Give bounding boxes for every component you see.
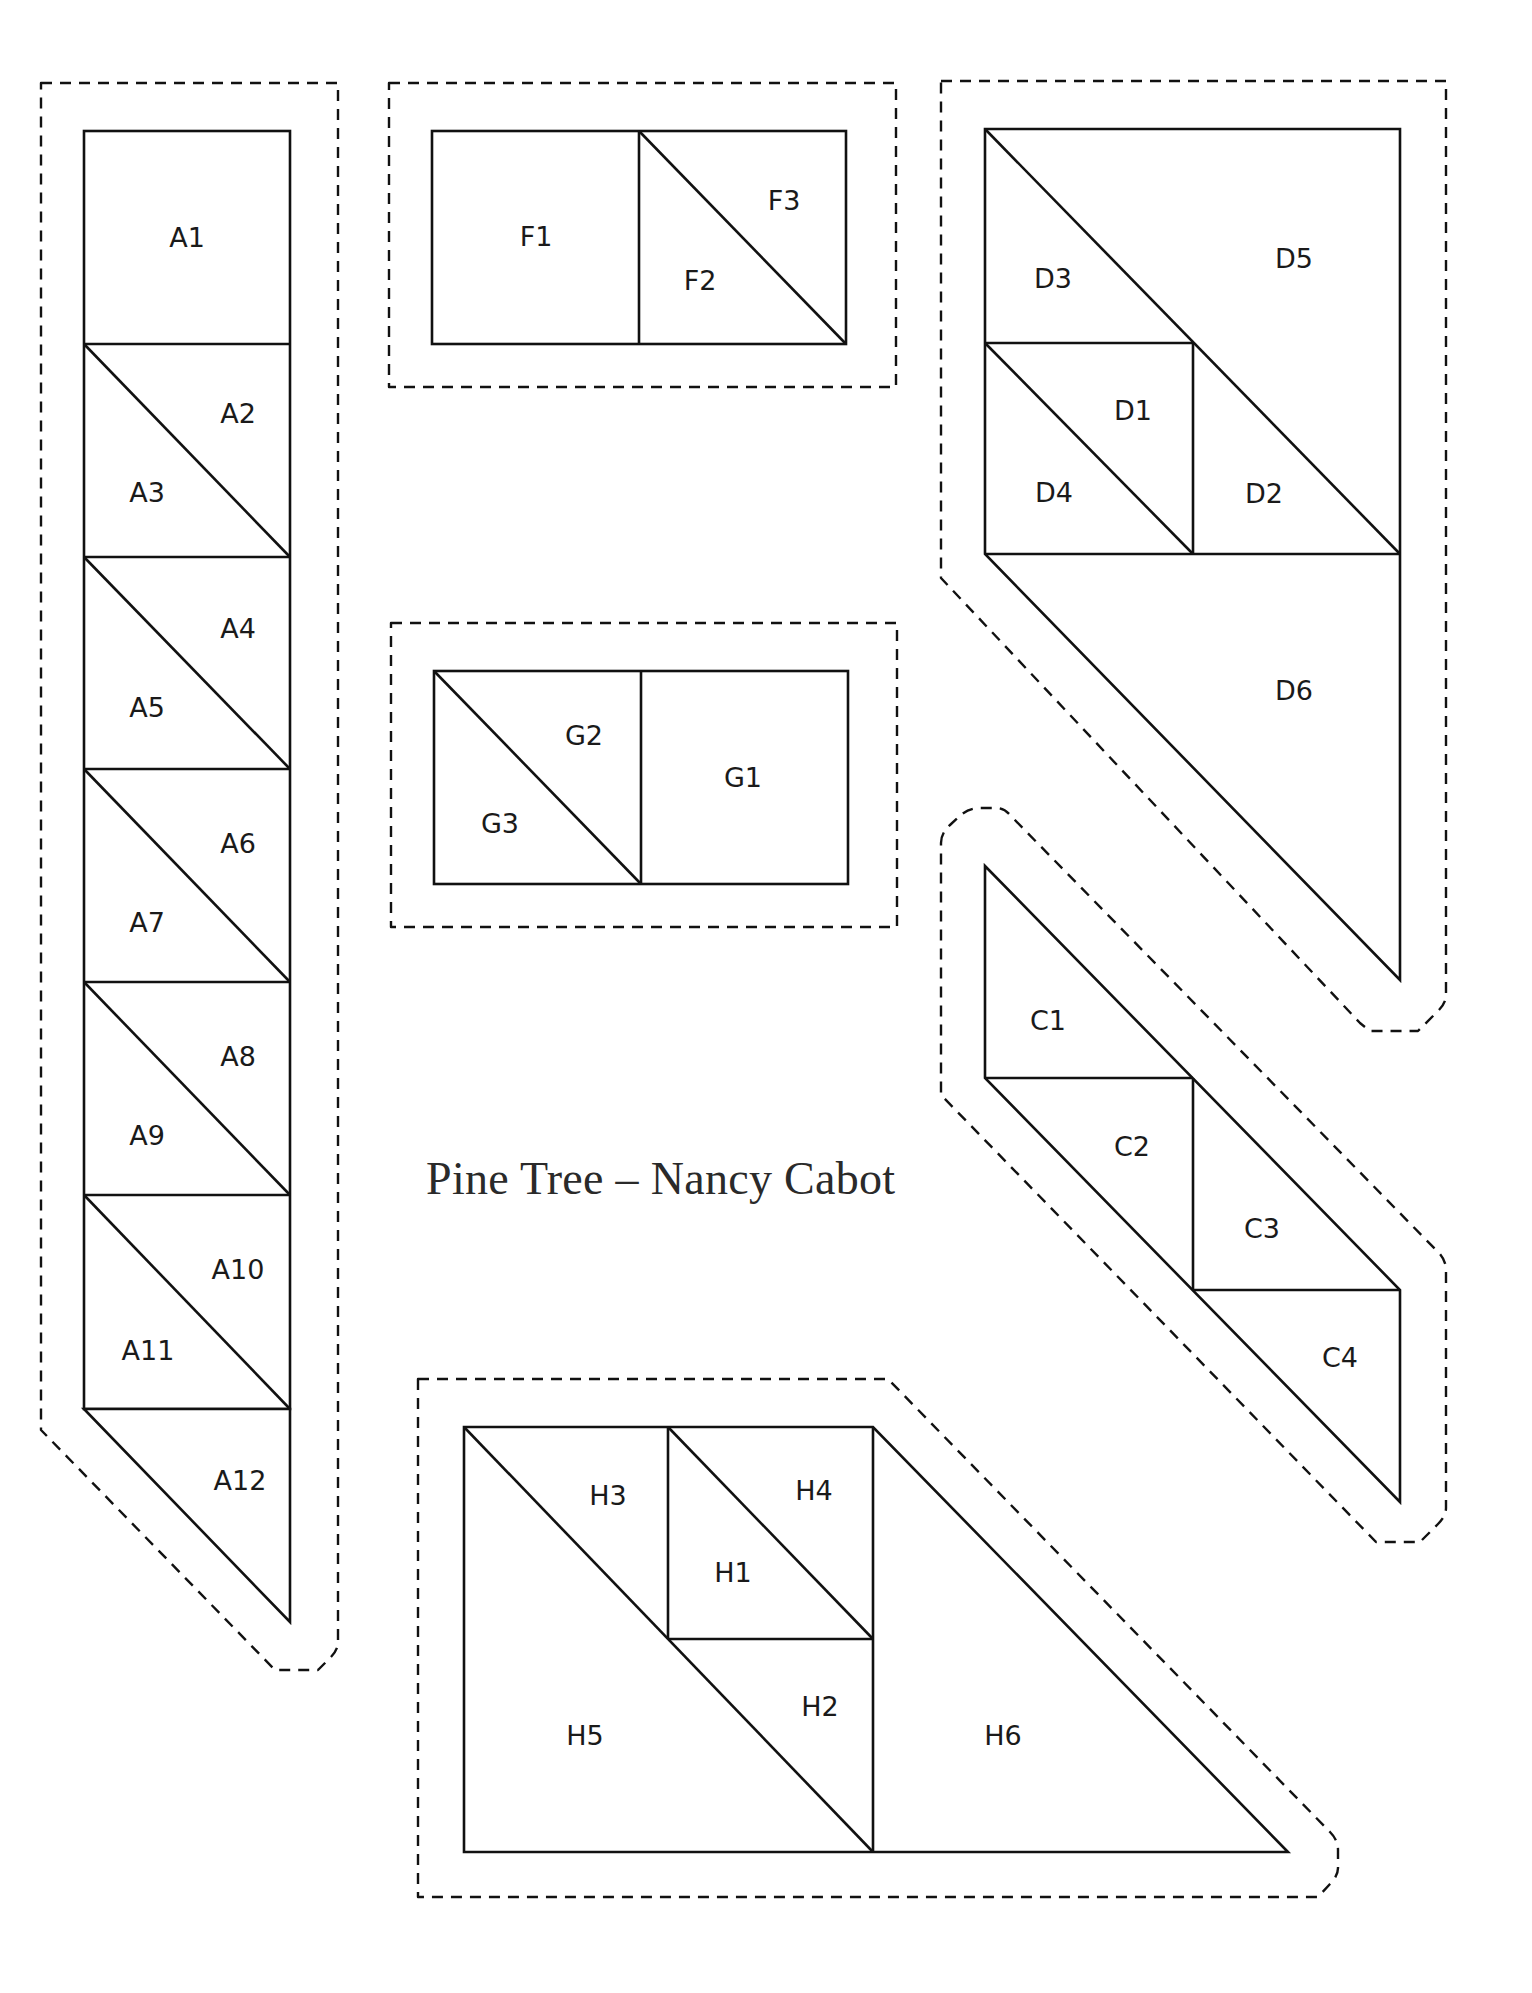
piece-label-d1: D1 (1114, 395, 1152, 426)
piece-label-h2: H2 (801, 1691, 838, 1722)
piece-label-a3: A3 (129, 477, 165, 508)
piece-label-a8: A8 (220, 1041, 256, 1072)
unit-h: H1 H2 H3 H4 H5 H6 (418, 1379, 1338, 1897)
piece-label-a12: A12 (214, 1465, 267, 1496)
piece-label-d5: D5 (1275, 243, 1313, 274)
piece-label-a9: A9 (129, 1120, 165, 1151)
unit-h-outline (464, 1427, 1288, 1852)
piece-label-c4: C4 (1322, 1342, 1358, 1373)
piece-label-a7: A7 (129, 907, 165, 938)
piece-label-a1: A1 (169, 222, 205, 253)
unit-a: A1 A2 A3 A4 A5 A6 A7 A8 A9 A10 A11 A12 (41, 83, 338, 1670)
foundation-pattern-diagram: A1 A2 A3 A4 A5 A6 A7 A8 A9 A10 A11 A12 F… (0, 0, 1532, 1993)
piece-label-c3: C3 (1244, 1213, 1280, 1244)
piece-label-f2: F2 (684, 265, 717, 296)
piece-label-d3: D3 (1034, 263, 1072, 294)
unit-f: F1 F2 F3 (389, 83, 896, 387)
unit-g: G1 G2 G3 (391, 623, 897, 927)
piece-label-g2: G2 (565, 720, 603, 751)
piece-label-f1: F1 (520, 221, 553, 252)
piece-label-a6: A6 (220, 828, 256, 859)
piece-label-a5: A5 (129, 692, 165, 723)
piece-a12-shape (84, 1409, 290, 1622)
piece-label-a2: A2 (220, 398, 256, 429)
piece-label-d4: D4 (1035, 477, 1073, 508)
pattern-page: A1 A2 A3 A4 A5 A6 A7 A8 A9 A10 A11 A12 F… (0, 0, 1532, 1993)
pattern-title: Pine Tree – Nancy Cabot (426, 1152, 912, 1205)
piece-label-g1: G1 (724, 762, 762, 793)
piece-label-c1: C1 (1030, 1005, 1066, 1036)
piece-label-a11: A11 (122, 1335, 175, 1366)
piece-label-h6: H6 (984, 1720, 1021, 1751)
piece-label-d6: D6 (1275, 675, 1313, 706)
unit-d: D1 D2 D3 D4 D5 D6 (941, 81, 1446, 1031)
piece-label-h4: H4 (795, 1475, 832, 1506)
piece-label-h5: H5 (566, 1720, 603, 1751)
piece-label-d2: D2 (1245, 478, 1283, 509)
piece-label-a4: A4 (220, 613, 256, 644)
piece-label-a10: A10 (212, 1254, 265, 1285)
piece-label-g3: G3 (481, 808, 519, 839)
piece-label-h1: H1 (714, 1557, 751, 1588)
piece-label-c2: C2 (1114, 1131, 1150, 1162)
piece-label-h3: H3 (589, 1480, 626, 1511)
piece-label-f3: F3 (768, 185, 801, 216)
